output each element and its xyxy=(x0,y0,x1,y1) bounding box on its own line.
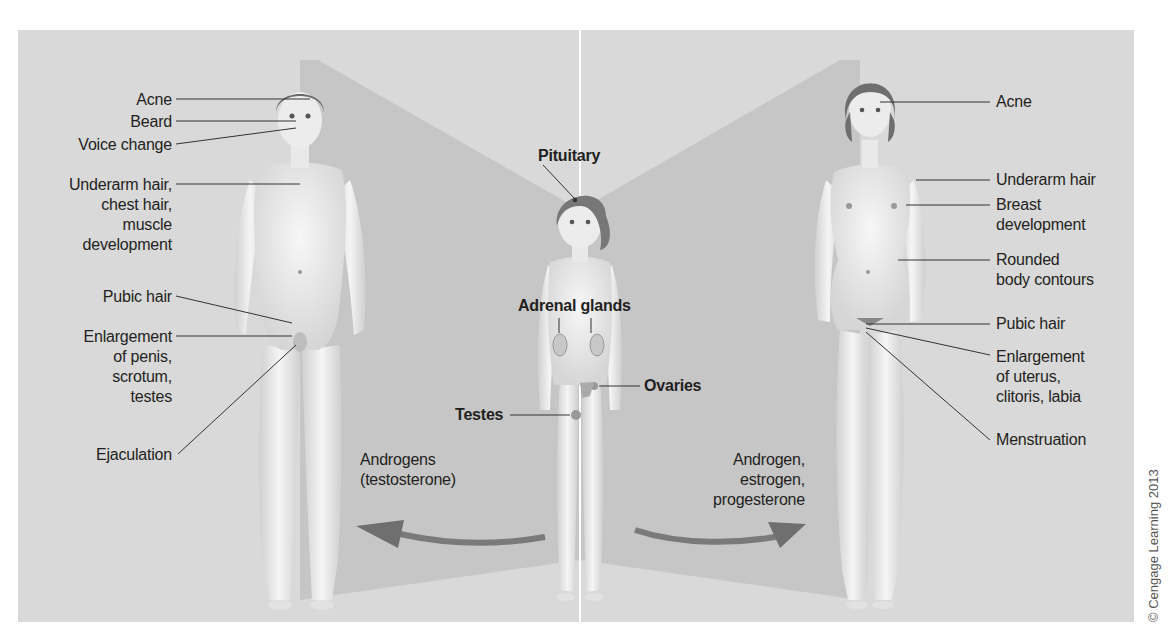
male-label-underarm-hair: Underarm hair, chest hair, muscle develo… xyxy=(69,175,172,255)
male-label-enlargement: Enlargement of penis, scrotum, testes xyxy=(83,327,172,407)
female-label-acne: Acne xyxy=(996,92,1032,112)
male-hormones-label: Androgens (testosterone) xyxy=(360,450,456,490)
child-label-adrenal-glands: Adrenal glands xyxy=(518,296,631,316)
male-label-pubic-hair: Pubic hair xyxy=(103,287,172,307)
male-hormone-cone xyxy=(300,60,580,600)
female-label-breast-development: Breast development xyxy=(996,195,1085,235)
female-label-enlargement: Enlargement of uterus, clitoris, labia xyxy=(996,347,1085,407)
female-label-underarm-hair: Underarm hair xyxy=(996,170,1096,190)
male-label-beard: Beard xyxy=(130,112,172,132)
child-label-testes: Testes xyxy=(455,405,503,425)
female-hormone-cone xyxy=(580,60,860,600)
diagram-panel xyxy=(18,30,1134,622)
female-label-rounded-body-contours: Rounded body contours xyxy=(996,250,1094,290)
male-label-ejaculation: Ejaculation xyxy=(96,445,172,465)
male-label-acne: Acne xyxy=(136,90,172,110)
copyright-notice: © Cengage Learning 2013 xyxy=(1146,469,1161,622)
female-label-menstruation: Menstruation xyxy=(996,430,1086,450)
female-hormones-label: Androgen, estrogen, progesterone xyxy=(713,450,805,510)
diagram-artwork xyxy=(18,30,1134,622)
male-label-voice-change: Voice change xyxy=(78,135,172,155)
child-label-pituitary: Pituitary xyxy=(538,146,600,166)
child-label-ovaries: Ovaries xyxy=(644,376,701,396)
female-label-pubic-hair: Pubic hair xyxy=(996,314,1065,334)
